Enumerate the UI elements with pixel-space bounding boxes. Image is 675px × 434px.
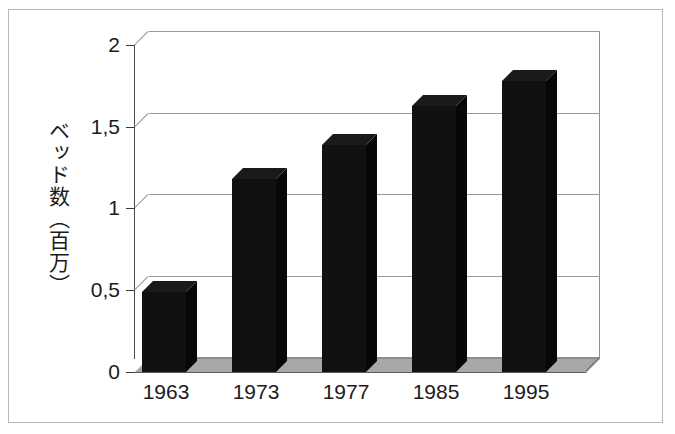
y-tick-label-0: 0	[62, 361, 120, 382]
bar-1973[interactable]	[232, 179, 276, 372]
y-tick-label-1: 1	[62, 197, 120, 218]
x-tick-label-1977: 1977	[298, 380, 394, 404]
bar-side-face	[186, 281, 197, 372]
x-tick-label-1995: 1995	[478, 380, 574, 404]
bar-side-face	[366, 134, 377, 372]
bar-side-face	[456, 95, 467, 372]
y-tick-label-2: 2	[62, 34, 120, 55]
x-tick-label-1985: 1985	[388, 380, 484, 404]
y-tick-label-0-5: 0,5	[62, 279, 120, 300]
bar-side-face	[276, 168, 287, 372]
y-tick-label-0-5-host: 0,5	[62, 290, 120, 291]
y-tick-label-1-host: 1	[62, 208, 120, 209]
y-tick-label-2-host: 2	[62, 45, 120, 46]
y-tick-label-0-host: 0	[62, 372, 120, 373]
chart-page: 2 1,5 1 0,5 0 1963 1973 1977 1985 1995 ベ…	[0, 0, 675, 434]
bar-1995[interactable]	[502, 81, 546, 372]
bar-1963[interactable]	[142, 292, 186, 372]
y-tick-label-1-5-host: 1,5	[62, 127, 120, 128]
x-tick-label-1973: 1973	[208, 380, 304, 404]
y-tick-label-1-5: 1,5	[62, 116, 120, 137]
bar-side-face	[546, 70, 557, 372]
bar-1985[interactable]	[412, 106, 456, 372]
y-axis-title: ベッド数（百万）	[34, 120, 68, 296]
x-tick-label-1963: 1963	[118, 380, 214, 404]
bar-1977[interactable]	[322, 145, 366, 372]
